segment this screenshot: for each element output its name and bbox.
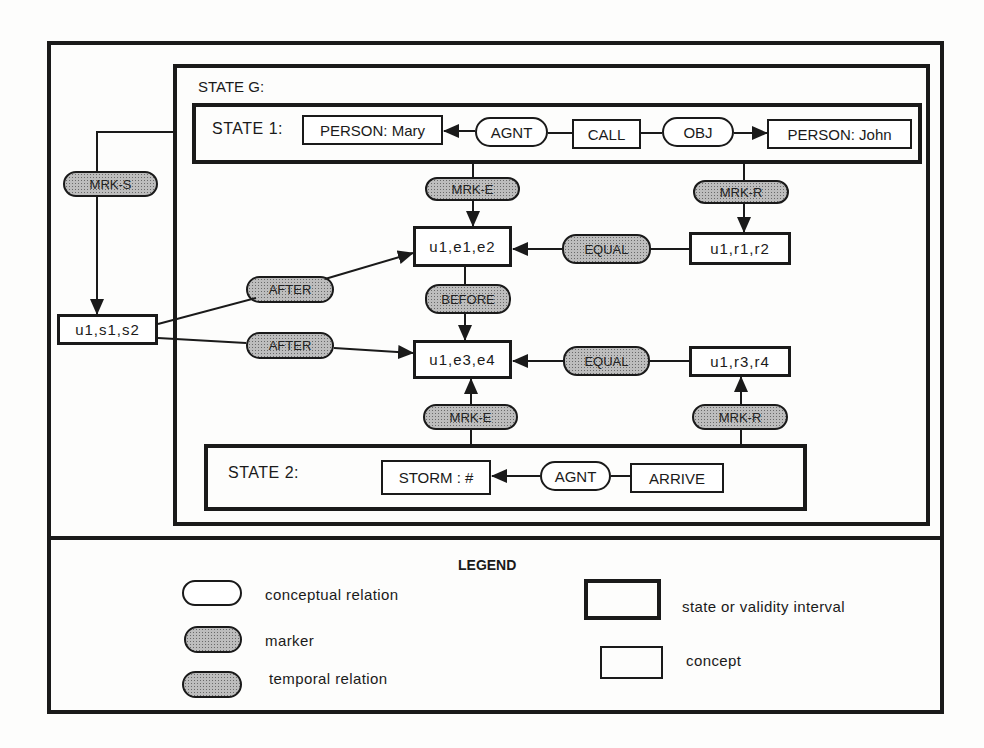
concept-person-john[interactable]: PERSON: John: [767, 119, 912, 149]
marker-mrk-r-bottom[interactable]: MRK-R: [692, 404, 788, 430]
legend-marker-label: marker: [265, 632, 314, 649]
legend-state-label: state or validity interval: [682, 598, 845, 615]
legend-concept-swatch: [600, 646, 663, 679]
legend-conceptual-relation-label: conceptual relation: [265, 586, 399, 603]
legend-marker-swatch: [184, 626, 242, 653]
concept-storm[interactable]: STORM : #: [381, 460, 491, 495]
marker-mrk-s[interactable]: MRK-S: [63, 171, 158, 197]
temporal-before[interactable]: BEFORE: [425, 284, 511, 314]
concept-arrive[interactable]: ARRIVE: [630, 463, 724, 493]
interval-u1-e3-e4[interactable]: u1,e3,e4: [413, 340, 512, 379]
state-2-label: STATE 2:: [228, 464, 299, 482]
marker-mrk-r-top[interactable]: MRK-R: [693, 180, 789, 204]
relation-agnt-state1[interactable]: AGNT: [475, 117, 548, 147]
temporal-after-top[interactable]: AFTER: [246, 276, 334, 303]
legend-temporal-relation-swatch: [182, 671, 242, 698]
marker-mrk-e-top[interactable]: MRK-E: [425, 177, 520, 201]
concept-person-mary[interactable]: PERSON: Mary: [302, 115, 443, 145]
temporal-equal-top[interactable]: EQUAL: [562, 234, 651, 264]
concept-call[interactable]: CALL: [572, 119, 641, 149]
legend-title: LEGEND: [458, 557, 516, 573]
state-1-label: STATE 1:: [212, 120, 283, 138]
state-g-label: STATE G:: [198, 78, 264, 95]
interval-u1-s1-s2[interactable]: u1,s1,s2: [57, 314, 158, 345]
legend-state-swatch: [584, 579, 661, 620]
relation-agnt-state2[interactable]: AGNT: [540, 461, 611, 491]
temporal-after-bottom[interactable]: AFTER: [246, 332, 334, 359]
interval-u1-r3-r4[interactable]: u1,r3,r4: [689, 346, 791, 377]
legend-conceptual-relation-swatch: [182, 580, 242, 606]
legend-divider: [47, 536, 944, 540]
relation-obj[interactable]: OBJ: [662, 117, 734, 147]
interval-u1-e1-e2[interactable]: u1,e1,e2: [413, 226, 512, 267]
interval-u1-r1-r2[interactable]: u1,r1,r2: [689, 232, 791, 265]
temporal-equal-bottom[interactable]: EQUAL: [563, 346, 650, 376]
legend-concept-label: concept: [686, 652, 741, 669]
legend-temporal-relation-label: temporal relation: [269, 670, 388, 687]
marker-mrk-e-bottom[interactable]: MRK-E: [423, 404, 518, 430]
